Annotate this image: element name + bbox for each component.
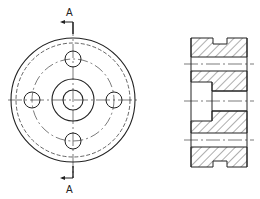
hatch-upper-hub <box>191 71 247 91</box>
front-view <box>8 20 138 180</box>
arrow-head-bottom-icon <box>60 176 65 180</box>
hatch-lower-hub <box>191 111 247 133</box>
section-view <box>184 38 254 167</box>
section-label-bottom: A <box>66 184 73 195</box>
hatch-bottom-flange <box>191 147 247 167</box>
arrow-head-top-icon <box>60 20 65 24</box>
hatch-top-flange <box>191 38 247 57</box>
drawing-canvas: A A <box>0 0 260 199</box>
section-label-top: A <box>66 7 73 18</box>
